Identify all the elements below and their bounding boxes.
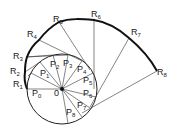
label-r2: R2 [10, 67, 20, 77]
label-r4: R4 [27, 30, 37, 40]
label-p4: P4 [77, 65, 86, 75]
label-r3: R3 [13, 52, 23, 62]
label-p6: P6 [83, 89, 92, 99]
involute-diagram: R1 R2 R3 R4 R5 R6 R7 R8 P0 P1 P2 P3 P4 P… [0, 0, 178, 125]
label-p3: P3 [63, 59, 72, 69]
label-r1: R1 [13, 80, 23, 90]
label-r5: R5 [53, 15, 63, 25]
label-r8: R8 [157, 68, 167, 78]
label-p0: P0 [32, 89, 41, 99]
label-p5: P5 [83, 76, 92, 86]
label-r6: R6 [91, 10, 101, 20]
label-p1: P1 [40, 69, 49, 79]
label-p7: P7 [77, 101, 86, 111]
label-center-o: 0 [54, 89, 59, 98]
center-point [60, 87, 64, 91]
label-p2: P2 [50, 60, 59, 70]
label-r7: R7 [131, 28, 141, 38]
label-p8: P8 [66, 108, 75, 118]
diagram-lines [0, 0, 178, 125]
